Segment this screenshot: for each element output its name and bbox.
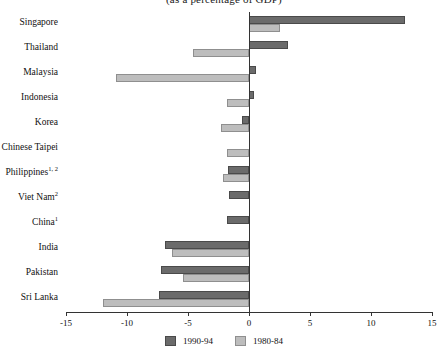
category-label: Singapore <box>0 17 58 27</box>
bar-1 <box>223 174 249 182</box>
x-tick-label: 10 <box>351 318 391 328</box>
bar-1 <box>183 274 249 282</box>
bar-1 <box>221 124 249 132</box>
category-label: Philippines1, 2 <box>0 167 58 177</box>
x-tick-label: -15 <box>46 318 86 328</box>
legend-swatch-icon <box>235 336 246 346</box>
bar-1 <box>193 49 249 57</box>
x-tick <box>249 312 250 316</box>
bar-0 <box>242 116 249 124</box>
x-tick-label: 5 <box>290 318 330 328</box>
x-tick-label: 15 <box>412 318 448 328</box>
bar-1 <box>103 299 249 307</box>
x-tick <box>310 312 311 316</box>
chart-title: (as a percentage of GDP) <box>0 0 448 5</box>
category-label: Thailand <box>0 42 58 52</box>
bar-1 <box>116 74 249 82</box>
legend-item: 1990-94 <box>165 336 213 346</box>
bar-0 <box>249 16 405 24</box>
category-label: Pakistan <box>0 267 58 277</box>
category-label: Korea <box>0 117 58 127</box>
category-label: Chinese Taipei <box>0 142 58 152</box>
category-label: Sri Lanka <box>0 292 58 302</box>
bar-0 <box>249 41 288 49</box>
bar-1 <box>227 149 249 157</box>
plot-area: SingaporeThailandMalaysiaIndonesiaKoreaC… <box>66 12 432 312</box>
x-tick <box>127 312 128 316</box>
x-tick <box>66 312 67 316</box>
x-tick-label: 0 <box>229 318 269 328</box>
zero-axis-line <box>249 12 250 312</box>
legend-swatch-icon <box>165 336 176 346</box>
bar-0 <box>249 66 256 74</box>
legend-label: 1980-84 <box>253 336 283 346</box>
bar-0 <box>227 216 249 224</box>
bar-1 <box>227 99 249 107</box>
x-tick-label: -10 <box>107 318 147 328</box>
x-tick <box>188 312 189 316</box>
chart-legend: 1990-941980-84 <box>0 336 448 346</box>
legend-item: 1980-84 <box>235 336 283 346</box>
bar-0 <box>229 191 249 199</box>
category-label: India <box>0 242 58 252</box>
x-tick <box>432 312 433 316</box>
x-tick-label: -5 <box>168 318 208 328</box>
category-footnote-marker: 2 <box>55 190 58 197</box>
category-footnote-marker: 1 <box>55 215 58 222</box>
category-footnote-marker: 1, 2 <box>48 165 58 172</box>
bar-0 <box>159 291 249 299</box>
category-label: Viet Nam2 <box>0 192 58 202</box>
category-label: Indonesia <box>0 92 58 102</box>
category-label: Malaysia <box>0 67 58 77</box>
bar-1 <box>172 249 249 257</box>
bar-1 <box>249 24 280 32</box>
legend-label: 1990-94 <box>183 336 213 346</box>
bar-chart: (as a percentage of GDP) SingaporeThaila… <box>0 0 448 359</box>
x-tick <box>371 312 372 316</box>
category-label: China1 <box>0 217 58 227</box>
bar-0 <box>161 266 249 274</box>
bar-0 <box>165 241 249 249</box>
bar-0 <box>228 166 249 174</box>
